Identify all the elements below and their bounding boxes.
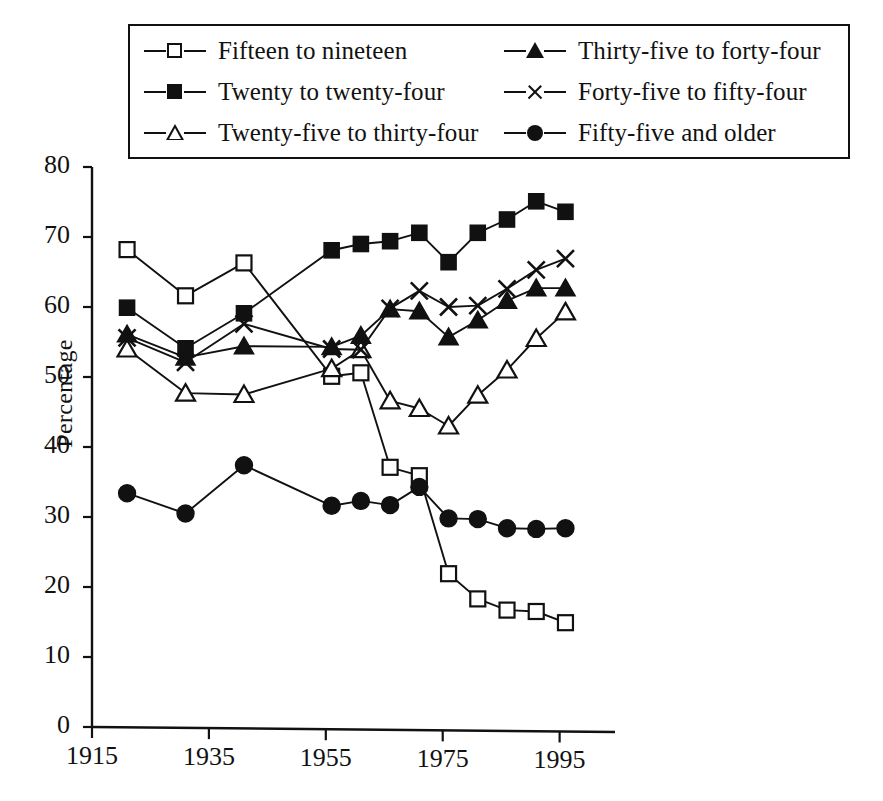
y-tick-label: 70 — [14, 222, 70, 248]
x-tick-label: 1915 — [47, 743, 137, 769]
series-line — [127, 465, 565, 529]
marker-circle-filled — [411, 478, 428, 495]
y-tick-label: 30 — [14, 502, 70, 528]
marker-square-filled — [441, 255, 456, 270]
series-fifty-five-and-older — [119, 457, 574, 538]
marker-square-open — [383, 460, 398, 475]
marker-square-open — [500, 603, 515, 618]
marker-square-filled — [120, 300, 135, 315]
marker-square-open — [529, 604, 544, 619]
x-axis-ticks — [92, 727, 560, 742]
x-tick-label: 1975 — [398, 746, 488, 772]
marker-square-open — [441, 566, 456, 581]
marker-square-filled — [324, 243, 339, 258]
y-tick-label: 10 — [14, 642, 70, 668]
marker-circle-filled — [352, 492, 369, 509]
marker-triangle-open — [381, 392, 400, 409]
marker-square-filled — [412, 225, 427, 240]
y-axis-ticks — [83, 167, 92, 727]
x-tick-label: 1955 — [281, 745, 371, 771]
marker-circle-filled — [528, 520, 545, 537]
marker-square-filled — [500, 212, 515, 227]
marker-circle-filled — [469, 511, 486, 528]
y-tick-label: 80 — [14, 152, 70, 178]
marker-square-filled — [353, 237, 368, 252]
marker-square-open — [558, 615, 573, 630]
marker-cross — [411, 282, 428, 299]
marker-triangle-open — [556, 303, 575, 320]
plot-area: Percentage 80706050403020100191519351955… — [0, 0, 883, 801]
y-tick-label: 50 — [14, 362, 70, 388]
x-tick-label: 1935 — [164, 744, 254, 770]
series-twenty-five-to-thirty-four — [118, 303, 575, 434]
marker-square-filled — [558, 204, 573, 219]
marker-circle-filled — [382, 497, 399, 514]
marker-square-open — [236, 255, 251, 270]
plot-canvas — [0, 0, 883, 801]
marker-square-filled — [383, 234, 398, 249]
marker-circle-filled — [499, 520, 516, 537]
marker-square-open — [353, 365, 368, 380]
chart-figure: Fifteen to nineteen Thirty-five to forty… — [0, 0, 883, 801]
marker-square-filled — [529, 194, 544, 209]
y-tick-label: 40 — [14, 432, 70, 458]
marker-circle-filled — [177, 505, 194, 522]
marker-circle-filled — [323, 497, 340, 514]
marker-circle-filled — [119, 485, 136, 502]
marker-square-open — [120, 242, 135, 257]
y-tick-label: 60 — [14, 292, 70, 318]
marker-circle-filled — [557, 520, 574, 537]
marker-cross — [528, 261, 545, 278]
x-tick-label: 1995 — [515, 747, 605, 773]
series-twenty-to-twenty-four — [120, 194, 573, 356]
marker-cross — [557, 250, 574, 267]
marker-circle-filled — [440, 510, 457, 527]
marker-square-open — [470, 591, 485, 606]
marker-square-filled — [470, 225, 485, 240]
y-tick-label: 0 — [14, 712, 70, 738]
marker-triangle-open — [410, 400, 429, 417]
y-tick-label: 20 — [14, 572, 70, 598]
marker-square-open — [178, 288, 193, 303]
marker-circle-filled — [235, 457, 252, 474]
